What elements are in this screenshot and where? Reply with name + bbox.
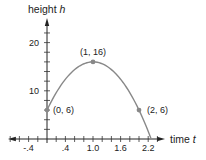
data-point-label: (0, 6) (53, 105, 74, 115)
y-axis-title: height h (28, 3, 66, 15)
y-tick-label: 20 (29, 38, 39, 48)
data-point (91, 59, 96, 64)
parabola-curve (47, 62, 151, 139)
x-tick-label: -.4 (23, 143, 34, 153)
data-points: (0, 6)(1, 16)(2, 6) (45, 47, 168, 115)
x-tick-label: .4 (62, 143, 70, 153)
x-tick-label: 2.2 (142, 143, 155, 153)
data-point (45, 108, 50, 113)
y-axis-arrow-icon (45, 18, 49, 26)
x-axis-title: time t (170, 133, 197, 145)
parabola-chart: -.4.41.01.62.21020 (0, 6)(1, 16)(2, 6) h… (0, 0, 206, 160)
x-tick-label: 1.6 (114, 143, 127, 153)
x-axis-left-arrow-icon (8, 137, 16, 141)
data-point (137, 108, 142, 113)
data-point-label: (1, 16) (80, 47, 106, 57)
y-tick-label: 10 (29, 86, 39, 96)
x-tick-label: 1.0 (87, 143, 100, 153)
data-point-label: (2, 6) (147, 105, 168, 115)
x-axis-right-arrow-icon (157, 137, 165, 141)
